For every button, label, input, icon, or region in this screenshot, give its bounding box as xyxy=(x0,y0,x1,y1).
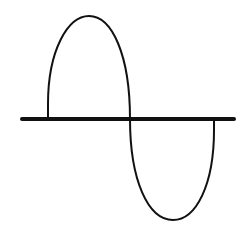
negative-half-cycle xyxy=(130,119,214,220)
sine-wave-diagram xyxy=(0,0,245,237)
positive-half-cycle xyxy=(48,16,130,119)
